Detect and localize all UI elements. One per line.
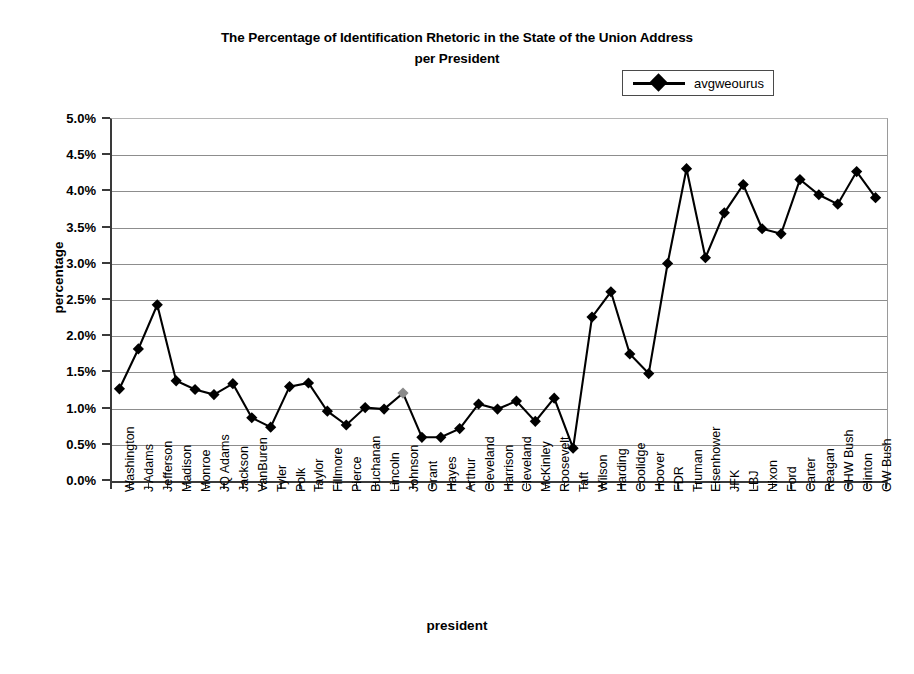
chart-legend[interactable]: avgweourus [622, 70, 774, 96]
y-axis-tick-mark [102, 479, 110, 481]
y-axis-tick-mark [102, 298, 110, 300]
y-axis-tick-label: 0.0% [34, 474, 96, 487]
y-axis-tick-mark [102, 407, 110, 409]
data-point [662, 258, 673, 269]
y-axis-tick-mark [102, 262, 110, 264]
data-point [171, 375, 182, 386]
x-axis-tick-label: Johnson [408, 445, 420, 492]
y-axis-tick-label: 4.0% [34, 184, 96, 197]
x-axis-tick-label: JQ Adams [219, 434, 231, 492]
chart-title: The Percentage of Identification Rhetori… [0, 27, 914, 69]
data-point [775, 228, 786, 239]
data-point [416, 432, 427, 443]
data-point [227, 378, 238, 389]
x-axis-tick-label: Coolidge [635, 443, 647, 492]
data-point [189, 384, 200, 395]
y-axis-tick-mark [102, 153, 110, 155]
x-axis-tick-label: Harding [616, 448, 628, 492]
x-axis-tick-label: JFK [729, 470, 741, 492]
data-point [133, 343, 144, 354]
y-axis-tick-label: 5.0% [34, 112, 96, 125]
x-axis-tick-label: Roosevelt [559, 436, 571, 492]
series-avgweourus [110, 118, 885, 480]
x-axis-tick-label: Taft [578, 472, 590, 492]
x-axis-tick-mark [110, 482, 112, 489]
x-axis-tick-label: GW Bush [881, 439, 893, 493]
y-axis-tick-label: 1.5% [34, 365, 96, 378]
x-axis-tick-label: Nixon [767, 460, 779, 492]
data-point [757, 223, 768, 234]
x-axis-tick-label: Hoover [654, 452, 666, 492]
x-axis-tick-label: Eisenhower [710, 427, 722, 492]
data-point [832, 199, 843, 210]
data-point [265, 422, 276, 433]
legend-series-marker-icon [633, 76, 685, 90]
data-point [719, 207, 730, 218]
y-axis-tick-label: 2.5% [34, 293, 96, 306]
y-axis-tick-mark [102, 443, 110, 445]
data-point [284, 381, 295, 392]
x-axis-tick-label: Truman [692, 449, 704, 492]
x-axis-title: president [0, 618, 914, 633]
data-point [303, 377, 314, 388]
y-axis-tick-mark [102, 334, 110, 336]
x-axis-tick-label: Tyler [276, 465, 288, 492]
x-axis-tick-label: Jackson [238, 446, 250, 492]
x-axis-tick-label: Harrison [503, 445, 515, 492]
data-point [738, 179, 749, 190]
x-axis-tick-label: GHW Bush [843, 429, 855, 492]
y-axis-tick-mark [102, 370, 110, 372]
x-axis-tick-label: Reagan [824, 448, 836, 492]
y-axis-tick-label: 4.5% [34, 148, 96, 161]
x-axis-tick-label: Pierce [351, 457, 363, 492]
data-point [208, 389, 219, 400]
data-point [152, 299, 163, 310]
x-axis-tick-label: Carter [805, 457, 817, 492]
y-axis-tick-mark [102, 117, 110, 119]
x-axis-tick-label: Grant [427, 461, 439, 492]
x-axis-tick-label: Wilson [597, 454, 609, 492]
x-axis-tick-label: Monroe [200, 450, 212, 492]
x-axis-tick-label: Lincoln [389, 452, 401, 492]
y-axis-tick-label: 3.0% [34, 257, 96, 270]
y-axis-tick-mark [102, 226, 110, 228]
y-axis-tick-label: 2.0% [34, 329, 96, 342]
series-markers [114, 163, 881, 454]
x-axis-tick-label: Cleveland [521, 436, 533, 492]
data-point [681, 163, 692, 174]
x-axis-tick-label: Ford [786, 466, 798, 492]
x-axis-tick-label: Hayes [446, 457, 458, 492]
x-axis-tick-label: Cleveland [484, 436, 496, 492]
chart-title-line-1: The Percentage of Identification Rhetori… [221, 30, 693, 45]
x-axis-tick-label: Taylor [313, 459, 325, 492]
data-point [700, 252, 711, 263]
x-axis-tick-label: Buchanan [370, 436, 382, 492]
y-axis-tick-mark [102, 189, 110, 191]
data-point [435, 432, 446, 443]
x-axis-tick-label: McKinley [540, 441, 552, 492]
data-point [114, 383, 125, 394]
x-axis-tick-label: Polk [295, 468, 307, 492]
x-axis-tick-label: Clinton [862, 453, 874, 492]
y-axis-tick-label: 0.5% [34, 438, 96, 451]
x-axis-tick-label: Jefferson [162, 441, 174, 492]
y-axis-tick-label: 3.5% [34, 221, 96, 234]
x-axis-tick-label: Fillmore [332, 448, 344, 492]
x-axis-tick-label: LBJ [748, 470, 760, 492]
chart-figure: The Percentage of Identification Rhetori… [0, 0, 914, 674]
legend-series-label: avgweourus [694, 76, 764, 91]
x-axis-tick-label: FDR [673, 466, 685, 492]
data-point [246, 412, 257, 423]
x-axis-tick-label: VanBuren [257, 437, 269, 492]
x-axis-tick-label: Arthur [465, 458, 477, 492]
chart-title-line-2: per President [0, 48, 914, 69]
x-axis-tick-label: Madison [181, 445, 193, 492]
x-axis-tick-label: Washington [124, 426, 136, 492]
x-axis-tick-label: J Adams [143, 444, 155, 492]
y-axis-tick-label: 1.0% [34, 402, 96, 415]
data-point [492, 403, 503, 414]
